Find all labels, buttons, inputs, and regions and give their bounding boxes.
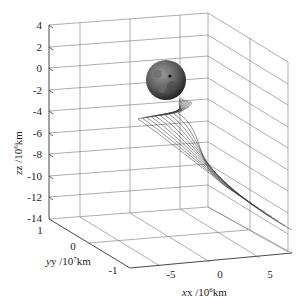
y-axis-label: yy /107km [45,255,91,267]
z-label-unit: km [12,131,24,146]
z-tick-labels: 4 2 0 -2 -4 -6 -8 -10 -12 -14 [27,19,42,224]
x-label-text: x /10 [187,286,210,298]
x-tick-labels: -5 0 5 [166,268,273,280]
plot-area: 4 2 0 -2 -4 -6 -8 -10 -12 -14 1 0 -1 -5 … [0,0,302,298]
back-wall-grid [49,13,208,217]
svg-text:zz /106km: zz /106km [12,131,24,176]
x-tick: 0 [217,268,223,280]
moon-sphere [146,60,186,100]
z-tick: -14 [27,212,42,224]
y-tick-labels: 1 0 -1 [37,224,117,276]
y-label-text: y /10 [51,255,74,267]
x-label-unit: km [213,286,228,298]
x-tick: -5 [166,268,176,280]
z-label-text: z /10 [12,148,24,170]
z-tick: -8 [33,148,43,160]
svg-text:yy /107km: yy /107km [45,255,91,267]
z-tick: 2 [37,41,43,53]
figure-3d-trajectory: 4 2 0 -2 -4 -6 -8 -10 -12 -14 1 0 -1 -5 … [0,0,302,298]
x-axis-label: xx /106km [181,286,227,298]
y-tick: 0 [70,240,76,252]
z-tick: 4 [37,19,43,31]
z-tick: -6 [33,127,43,139]
z-axis-label: zz /106km [12,131,24,176]
side-wall-grid [208,13,288,252]
y-tick: -1 [108,264,117,276]
z-tick: -10 [27,170,42,182]
z-tick: -2 [33,84,42,96]
y-tick: 1 [37,224,43,236]
z-tick: -12 [27,191,42,203]
z-tick: -4 [33,105,43,117]
y-label-unit: km [77,255,92,267]
svg-text:xx /106km: xx /106km [181,286,227,298]
x-tick: 5 [267,268,273,280]
z-tick: 0 [37,62,43,74]
